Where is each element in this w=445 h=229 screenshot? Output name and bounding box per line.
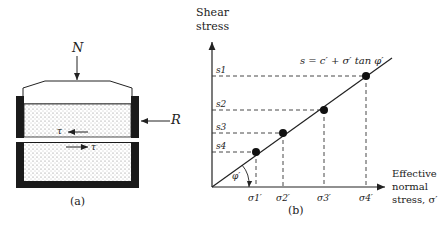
shear-bottom-label: τ (91, 141, 96, 153)
x-tick-sigma2: σ2′ (276, 192, 290, 204)
load-label: N (72, 42, 83, 54)
envelope-equation: s = c′ + σ′ tan φ′ (300, 55, 384, 67)
shear-top-label: τ (57, 125, 62, 137)
x-axis-label-line1: Effective (392, 168, 437, 180)
y-tick-s2: s2 (216, 98, 226, 110)
x-axis-label-line2: normal (392, 181, 428, 193)
y-axis-label-line2: stress (196, 21, 229, 33)
caption-b: (b) (288, 205, 304, 217)
caption-a: (a) (70, 196, 85, 208)
diagram-canvas (0, 0, 445, 229)
x-tick-sigma4: σ4′ (359, 192, 373, 204)
x-tick-sigma3: σ3′ (317, 192, 331, 204)
x-axis-label-line3: stress, σ′ (392, 194, 438, 206)
y-tick-s1: s1 (216, 64, 226, 76)
shear-box (16, 56, 170, 188)
y-axis-label-line1: Shear (196, 7, 229, 19)
friction-angle-label: φ′ (232, 170, 240, 182)
x-tick-sigma1: σ1′ (248, 192, 262, 204)
y-tick-s4: s4 (216, 140, 226, 152)
y-tick-s3: s3 (216, 121, 226, 133)
reaction-label: R (171, 114, 181, 126)
